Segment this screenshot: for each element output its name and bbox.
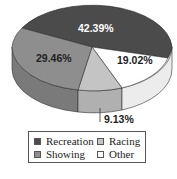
legend-label: Racing: [109, 135, 140, 147]
legend-item-other: Other: [97, 148, 134, 160]
swatch-recreation-icon: [34, 138, 41, 145]
legend-item-recreation: Recreation: [34, 135, 94, 147]
legend-label: Recreation: [46, 135, 94, 147]
swatch-other-icon: [97, 151, 104, 158]
swatch-showing-icon: [34, 151, 41, 158]
label-other: 19.02%: [117, 54, 153, 66]
legend-item-racing: Racing: [97, 135, 140, 147]
chart-legend: Recreation Racing Showing Other: [28, 131, 146, 163]
label-showing: 29.46%: [36, 52, 72, 64]
pie-top: [12, 5, 172, 91]
swatch-racing-icon: [97, 138, 104, 145]
label-racing: 9.13%: [104, 113, 134, 125]
pie-chart: 42.39% 29.46% 19.02% 9.13%: [0, 0, 177, 130]
label-recreation: 42.39%: [78, 22, 114, 34]
legend-label: Other: [109, 148, 134, 160]
legend-item-showing: Showing: [34, 148, 85, 160]
legend-label: Showing: [46, 148, 85, 160]
